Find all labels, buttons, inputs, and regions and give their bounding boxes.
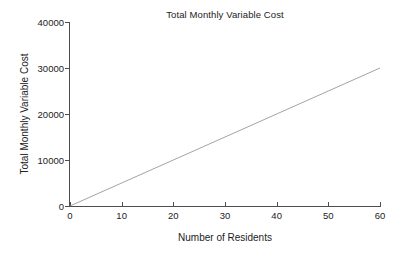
x-tick-label: 10 (116, 210, 127, 221)
x-tick-label: 0 (67, 210, 72, 221)
y-tick-label: 0 (18, 201, 64, 212)
y-tick-label: 30000 (18, 63, 64, 74)
x-tick-label: 40 (271, 210, 282, 221)
y-tick-mark (65, 22, 69, 23)
y-tick-mark (65, 160, 69, 161)
plot-area: 010000200003000040000 0102030405060 (70, 22, 380, 206)
x-tick-label: 60 (375, 210, 386, 221)
x-tick-label: 20 (168, 210, 179, 221)
y-tick-mark (65, 114, 69, 115)
data-series-layer (70, 22, 380, 206)
x-axis-spine (69, 206, 381, 207)
chart-title: Total Monthly Variable Cost (70, 9, 380, 20)
y-tick-mark (65, 206, 69, 207)
x-axis-label: Number of Residents (70, 232, 380, 243)
y-tick-label: 10000 (18, 155, 64, 166)
x-tick-label: 30 (220, 210, 231, 221)
y-tick-label: 40000 (18, 17, 64, 28)
x-tick-label: 50 (323, 210, 334, 221)
y-tick-mark (65, 68, 69, 69)
y-tick-label: 20000 (18, 109, 64, 120)
chart-figure: Total Monthly Variable Cost Total Monthl… (0, 0, 405, 256)
x-tick-mark (380, 202, 381, 206)
line-series-total-monthly-variable-cost (70, 68, 380, 206)
